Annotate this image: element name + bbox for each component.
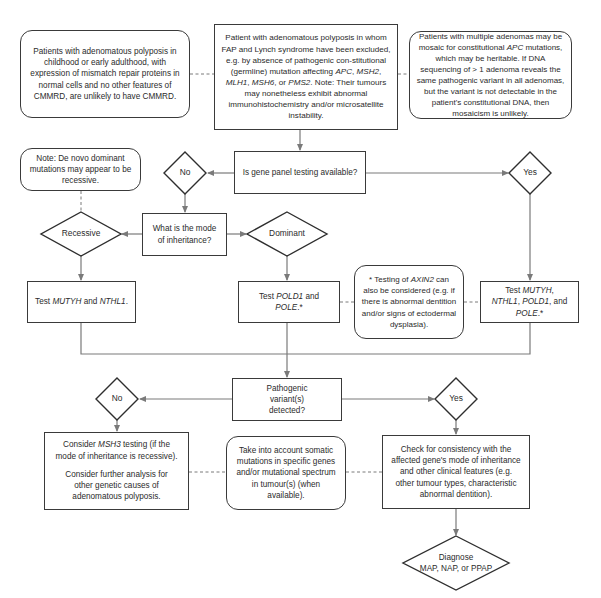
- label-panel-yes: Yes: [509, 152, 551, 194]
- label-detected-no: No: [96, 378, 138, 420]
- start-text: Patient with adenomatous polyposis in wh…: [221, 32, 391, 121]
- start-node: Patient with adenomatous polyposis in wh…: [214, 24, 398, 130]
- label-detected-yes: Yes: [435, 378, 477, 420]
- note-mosaic-text: Patients with multiple adenomas may be m…: [416, 31, 565, 119]
- note-mosaic: Patients with multiple adenomas may be m…: [409, 31, 572, 119]
- label-panel-no: No: [164, 152, 206, 194]
- question-panel: Is gene panel testing available?: [234, 151, 366, 194]
- question-detected: Pathogenic variant(s) detected?: [232, 378, 342, 421]
- consider-msh3: Consider MSH3 testing (if the mode of in…: [44, 432, 189, 510]
- note-axin2: * Testing of AXIN2 can also be considere…: [354, 265, 464, 339]
- check-consistency: Check for consistency with the affected …: [382, 435, 530, 509]
- label-recessive: Recessive: [41, 212, 121, 256]
- note-somatic: Take into account somatic mutations in s…: [226, 436, 346, 510]
- note-cmmrd: Patients with adenomatous polyposis in c…: [20, 30, 190, 118]
- test-panel: Test MUTYH, NTHL1, POLD1, and POLE.*: [480, 281, 579, 323]
- label-dominant: Dominant: [247, 212, 327, 256]
- note-de-novo: Note: De novo dominant mutations may app…: [20, 148, 141, 191]
- test-dominant: Test POLD1 and POLE.*: [238, 281, 340, 323]
- note-cmmrd-text: Patients with adenomatous polyposis in c…: [27, 46, 183, 103]
- label-diagnose: Diagnose MAP, NAP, or PPAP: [403, 536, 509, 590]
- test-recessive: Test MUTYH and NTHL1.: [27, 281, 136, 323]
- question-inheritance: What is the mode of inheritance?: [142, 213, 227, 256]
